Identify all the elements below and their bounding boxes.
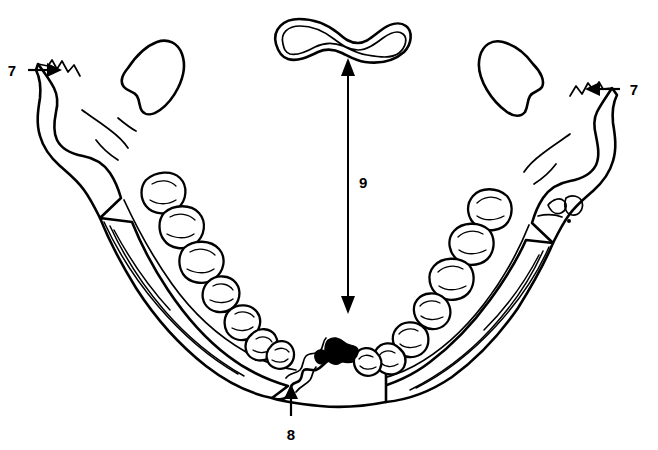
label-7-left: 7: [8, 62, 16, 79]
midline-dark-area-2: [315, 350, 329, 364]
arrow-head-9-bottom: [341, 296, 355, 314]
left-condyle-neck-line: [118, 118, 136, 131]
tooth-left-lateral-incisor: [267, 341, 294, 369]
right-ramus-body: [532, 88, 617, 243]
anatomical-figure: 7 7 8 9: [0, 0, 658, 450]
right-ramus-inner-detail: [524, 134, 570, 172]
right-condyle: [479, 41, 543, 116]
left-ramus-inner-detail: [82, 110, 128, 148]
label-8: 8: [287, 426, 295, 443]
label-9: 9: [359, 174, 367, 191]
left-dental-arch: [142, 173, 295, 369]
left-condyle: [122, 41, 184, 115]
callout-9-measure: 9: [341, 58, 367, 314]
left-mylohyoid-groove: [96, 140, 118, 160]
right-dental-arch: [354, 189, 512, 376]
hyoid-bone-group: [275, 19, 410, 63]
label-7-right: 7: [630, 81, 638, 98]
right-mylohyoid-groove: [534, 164, 556, 184]
arrow-head-9-top: [341, 58, 355, 76]
mandible-hyoid-diagram: 7 7 8 9: [0, 0, 658, 450]
left-ramus-body: [36, 64, 121, 218]
